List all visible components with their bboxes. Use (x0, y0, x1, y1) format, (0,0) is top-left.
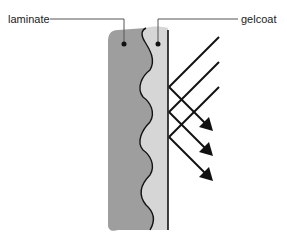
gelcoat-dot (156, 42, 161, 47)
incident-rays (169, 37, 219, 137)
gelcoat-leader (158, 19, 238, 42)
cross-section-diagram (0, 0, 287, 238)
laminate-dot (122, 42, 127, 47)
arrowhead-icons (199, 117, 213, 181)
reflected-rays (169, 87, 205, 173)
